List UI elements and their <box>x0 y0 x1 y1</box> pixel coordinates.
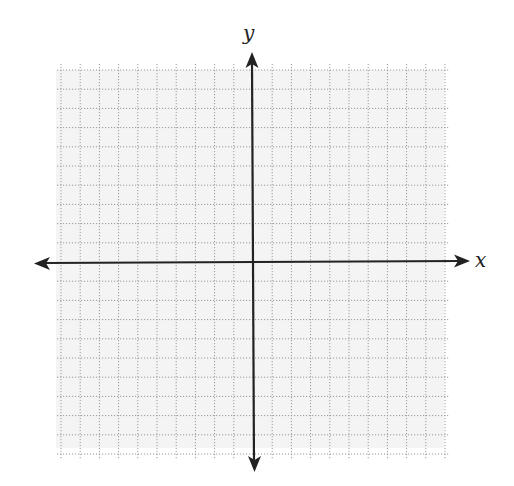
grid-background <box>56 70 444 448</box>
y-axis-label: y <box>242 21 255 45</box>
coordinate-plane-svg: x y <box>0 0 514 486</box>
coordinate-plane: x y <box>0 0 514 486</box>
x-axis-label: x <box>475 248 486 272</box>
